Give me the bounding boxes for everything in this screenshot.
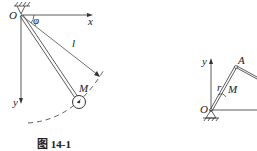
- right-y-axis-label: y: [201, 55, 207, 67]
- diagram-canvas: O x y φ l M 图 14-1: [0, 0, 257, 151]
- angle-label: φ: [33, 14, 39, 26]
- pendulum-rod: [20, 15, 78, 98]
- y-axis-label: y: [12, 96, 18, 108]
- right-y-axis: [209, 58, 213, 110]
- right-mass-label: M: [227, 83, 238, 95]
- radius-label: r: [217, 81, 222, 93]
- x-axis: [21, 13, 93, 17]
- mass-label: M: [78, 82, 89, 94]
- right-origin-label: O: [200, 103, 208, 115]
- moment-arrow: [218, 94, 226, 97]
- y-axis: [19, 15, 23, 104]
- joint-a-label: A: [237, 54, 245, 66]
- length-label: l: [72, 37, 75, 49]
- x-axis-label: x: [87, 15, 93, 27]
- pendulum-figure: O x y φ l M 图 14-1: [9, 2, 105, 150]
- connecting-link: [237, 66, 257, 79]
- crank-figure: O y A r M: [200, 54, 257, 121]
- swing-arc: [28, 68, 105, 123]
- origin-label: O: [9, 9, 17, 21]
- pendulum-bob: [73, 96, 86, 109]
- figure-caption: 图 14-1: [37, 138, 71, 150]
